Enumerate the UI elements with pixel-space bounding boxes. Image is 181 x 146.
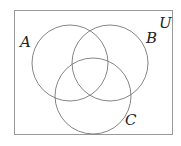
set-c-circle (55, 58, 131, 134)
set-a-label: A (18, 33, 31, 51)
set-b-label: B (145, 29, 157, 47)
universe-label: U (159, 14, 173, 32)
set-c-label: C (125, 111, 137, 129)
venn-diagram: U A B C (0, 0, 181, 146)
set-a-circle (32, 25, 108, 101)
set-b-circle (72, 25, 148, 101)
